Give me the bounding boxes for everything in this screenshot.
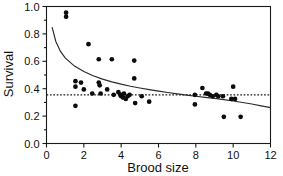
y-tick-label: 1.0 bbox=[24, 1, 39, 13]
data-point bbox=[73, 79, 78, 84]
data-point bbox=[97, 83, 102, 88]
data-point bbox=[216, 94, 221, 99]
data-point bbox=[221, 94, 226, 99]
data-point bbox=[105, 87, 110, 92]
fitted-decay-curve bbox=[52, 27, 270, 108]
data-point bbox=[127, 93, 132, 98]
data-point bbox=[238, 114, 243, 119]
data-point bbox=[86, 42, 91, 47]
y-tick-label: 0.2 bbox=[24, 110, 39, 122]
y-tick-label: 0.4 bbox=[24, 83, 39, 95]
x-tick-label: 2 bbox=[81, 149, 87, 161]
data-point bbox=[231, 84, 236, 89]
data-point bbox=[111, 93, 116, 98]
data-point bbox=[109, 57, 114, 62]
x-axis-title: Brood size bbox=[127, 160, 188, 175]
data-point bbox=[96, 57, 101, 62]
data-point bbox=[73, 103, 78, 108]
data-point bbox=[221, 114, 226, 119]
y-tick-label: 0.6 bbox=[24, 55, 39, 67]
data-point bbox=[139, 94, 144, 99]
x-axis-tick-labels: 024681012 bbox=[43, 149, 276, 161]
data-point bbox=[90, 91, 95, 96]
scatter-plot-canvas: 024681012 0.00.20.40.60.81.0 Brood size … bbox=[0, 0, 283, 176]
x-tick-label: 0 bbox=[43, 149, 49, 161]
data-point bbox=[79, 80, 84, 85]
data-point bbox=[132, 58, 137, 63]
x-tick-label: 6 bbox=[155, 149, 161, 161]
data-point bbox=[233, 97, 238, 102]
data-point bbox=[133, 101, 138, 106]
data-point bbox=[64, 10, 69, 15]
y-tick-label: 0.0 bbox=[24, 138, 39, 150]
data-point bbox=[193, 93, 198, 98]
data-point bbox=[147, 99, 152, 104]
data-points-group bbox=[64, 10, 243, 119]
data-point bbox=[122, 91, 127, 96]
x-tick-label: 12 bbox=[264, 149, 276, 161]
x-tick-label: 4 bbox=[118, 149, 124, 161]
y-axis-tick-labels: 0.00.20.40.60.81.0 bbox=[24, 1, 39, 150]
plot-frame bbox=[47, 7, 271, 144]
y-axis-ticks bbox=[43, 7, 47, 144]
x-tick-label: 8 bbox=[193, 149, 199, 161]
data-point bbox=[193, 102, 198, 107]
data-point bbox=[81, 87, 86, 92]
data-point bbox=[73, 84, 78, 89]
y-tick-label: 0.8 bbox=[24, 28, 39, 40]
figure-scatter-survival-vs-brood-size: 024681012 0.00.20.40.60.81.0 Brood size … bbox=[0, 0, 283, 176]
x-axis-ticks bbox=[47, 144, 271, 148]
data-point bbox=[132, 76, 137, 81]
y-axis-title: Survival bbox=[1, 51, 16, 97]
x-tick-label: 10 bbox=[227, 149, 239, 161]
data-point bbox=[64, 14, 69, 19]
data-point bbox=[200, 86, 205, 91]
data-point bbox=[98, 91, 103, 96]
